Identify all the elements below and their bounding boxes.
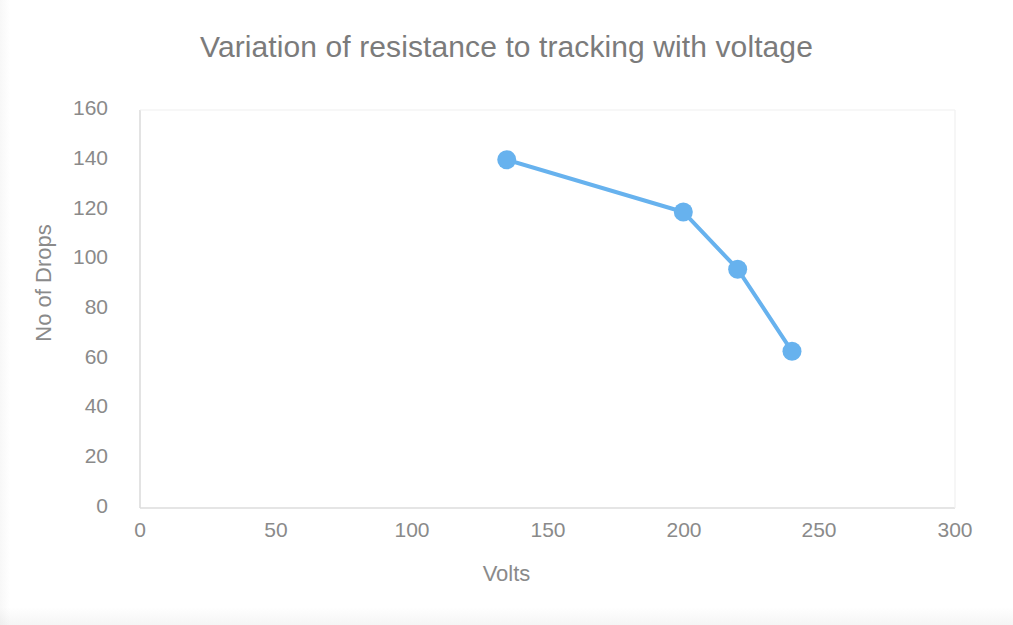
x-tick-150: 150	[513, 518, 583, 542]
data-point[interactable]	[728, 260, 747, 279]
data-point[interactable]	[497, 150, 516, 169]
chart-page: Variation of resistance to tracking with…	[0, 0, 1013, 625]
y-tick-0: 0	[48, 494, 108, 518]
data-point[interactable]	[674, 202, 693, 221]
x-tick-300: 300	[920, 518, 990, 542]
y-tick-80: 80	[48, 295, 108, 319]
y-tick-100: 100	[48, 245, 108, 269]
y-tick-40: 40	[48, 394, 108, 418]
y-tick-60: 60	[48, 345, 108, 369]
x-tick-0: 0	[105, 518, 175, 542]
y-tick-20: 20	[48, 444, 108, 468]
x-tick-250: 250	[784, 518, 854, 542]
data-point[interactable]	[783, 342, 802, 361]
series-line	[507, 160, 792, 352]
y-tick-160: 160	[48, 96, 108, 120]
x-tick-200: 200	[649, 518, 719, 542]
x-tick-100: 100	[377, 518, 447, 542]
y-tick-120: 120	[48, 196, 108, 220]
series-markers	[497, 150, 801, 361]
y-axis-title: No of Drops	[31, 203, 57, 363]
data-series-no-of-drops	[497, 150, 801, 361]
x-tick-50: 50	[241, 518, 311, 542]
y-tick-140: 140	[48, 146, 108, 170]
x-axis-title: Volts	[0, 561, 1013, 587]
